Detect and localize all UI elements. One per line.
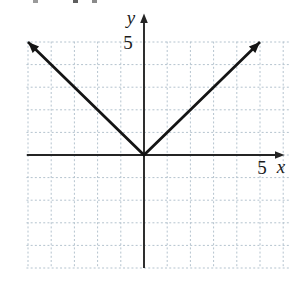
graph-figure: y 5 5 x	[0, 0, 299, 281]
scan-artifact-mark	[33, 0, 38, 3]
axes	[27, 14, 285, 269]
x-axis-label: x	[276, 156, 286, 177]
graph-canvas: y 5 5 x	[0, 0, 299, 281]
y-axis-arrowhead	[140, 14, 148, 24]
x-axis-tick-5: 5	[257, 157, 267, 178]
y-axis-label: y	[125, 7, 136, 28]
y-axis-tick-5: 5	[123, 32, 133, 53]
scan-artifact-mark	[73, 0, 78, 3]
scan-artifact-mark	[92, 0, 97, 3]
